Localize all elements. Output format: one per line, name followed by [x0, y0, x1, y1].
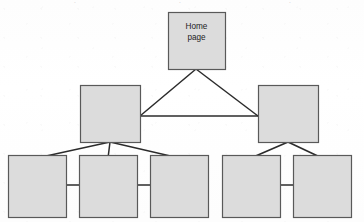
node-box[interactable]	[80, 156, 138, 218]
node-label: page	[187, 33, 206, 42]
node-box[interactable]	[9, 156, 67, 218]
diagram-node-leaf-1[interactable]	[9, 156, 67, 218]
node-box[interactable]	[223, 156, 281, 218]
connector-line	[140, 69, 196, 116]
node-box[interactable]	[151, 156, 209, 218]
cut-off-text-mark: ·	[74, 0, 76, 7]
diagram-node-leaf-3[interactable]	[151, 156, 209, 218]
diagram-node-leaf-4[interactable]	[223, 156, 281, 218]
nodes-layer: Homepage	[9, 13, 352, 218]
node-box[interactable]	[259, 86, 319, 143]
node-box[interactable]	[294, 156, 352, 218]
cut-off-text-mark: ·	[179, 0, 181, 7]
cut-off-top-marks-layer: ···	[74, 0, 291, 7]
diagram-node-home[interactable]: Homepage	[169, 13, 226, 70]
diagram-node-leaf-2[interactable]	[80, 156, 138, 218]
diagram-node-mid-right[interactable]	[259, 86, 319, 143]
hierarchy-diagram: ··· Homepage	[0, 0, 364, 222]
diagram-node-leaf-5[interactable]	[294, 156, 352, 218]
diagram-node-mid-left[interactable]	[81, 86, 141, 143]
connector-line	[196, 69, 258, 116]
sitemap-diagram-screenshot: ··· Homepage	[0, 0, 364, 222]
node-box[interactable]	[81, 86, 141, 143]
cut-off-text-mark: ·	[289, 0, 291, 7]
node-label: Home	[186, 22, 208, 31]
